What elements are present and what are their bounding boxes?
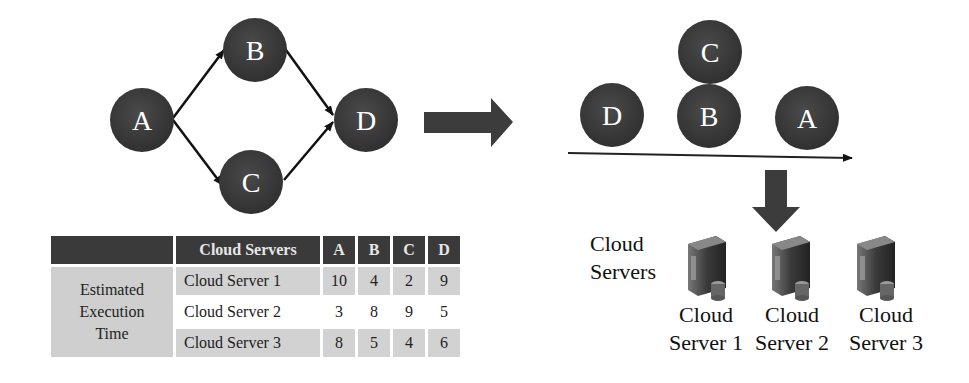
schedule-node-a: A [775,86,839,150]
table-header-row: Cloud Servers A B C D [51,236,460,264]
schedule-node-c: C [678,20,742,84]
server-icon [857,236,895,301]
execution-time-table: Cloud Servers A B C D Estimated Executio… [48,233,463,360]
server-2-caption-line2: Server 2 [755,330,829,355]
svg-text:A: A [132,105,153,136]
server-icon [772,236,810,301]
edge-b-d [286,50,333,115]
value-cell: 4 [393,329,425,357]
value-cell: 4 [358,267,390,295]
column-header: D [428,236,460,264]
table-row: Estimated Execution Time Cloud Server 1 … [51,267,460,295]
svg-text:C: C [242,167,261,198]
column-header: Cloud Servers [176,236,320,264]
row-header-line: Estimated [57,279,167,301]
servers-group-label-line1: Cloud [590,231,644,256]
value-cell: 5 [358,329,390,357]
dag-node-d: D [334,88,398,152]
value-cell: 2 [393,267,425,295]
server-icon [688,236,726,301]
edge-c-d [284,122,333,180]
value-cell: 10 [323,267,355,295]
server-name-cell: Cloud Server 2 [176,298,320,326]
dag-node-b: B [223,18,287,82]
svg-text:C: C [701,37,720,68]
column-header: B [358,236,390,264]
value-cell: 9 [393,298,425,326]
column-header: A [323,236,355,264]
server-1-caption-line1: Cloud [679,302,733,327]
server-name-cell: Cloud Server 3 [176,329,320,357]
schedule-node-d: D [580,83,644,147]
server-name-cell: Cloud Server 1 [176,267,320,295]
value-cell: 8 [323,329,355,357]
edge-a-b [173,50,224,118]
column-header: C [393,236,425,264]
value-cell: 9 [428,267,460,295]
server-1-caption-line2: Server 1 [669,330,743,355]
down-arrow-icon [752,170,800,232]
row-header-line: Execution [57,301,167,323]
dag-node-a: A [110,88,174,152]
row-group-header: Estimated Execution Time [51,267,173,357]
server-3-caption-line2: Server 3 [849,330,923,355]
svg-text:B: B [246,35,265,66]
dag-node-c: C [219,150,283,214]
server-2-caption-line1: Cloud [765,302,819,327]
row-header-line: Time [57,323,167,345]
value-cell: 6 [428,329,460,357]
servers-group-label-line2: Servers [590,259,656,284]
value-cell: 3 [323,298,355,326]
value-cell: 8 [358,298,390,326]
right-arrow-icon [424,98,513,147]
svg-text:B: B [700,101,719,132]
table-corner [51,236,173,264]
value-cell: 5 [428,298,460,326]
timeline-axis [568,153,852,158]
schedule-node-b: B [677,84,741,148]
svg-text:D: D [602,100,622,131]
svg-text:A: A [797,103,818,134]
svg-text:D: D [356,105,376,136]
edge-a-c [173,120,222,185]
server-3-caption-line1: Cloud [859,302,913,327]
